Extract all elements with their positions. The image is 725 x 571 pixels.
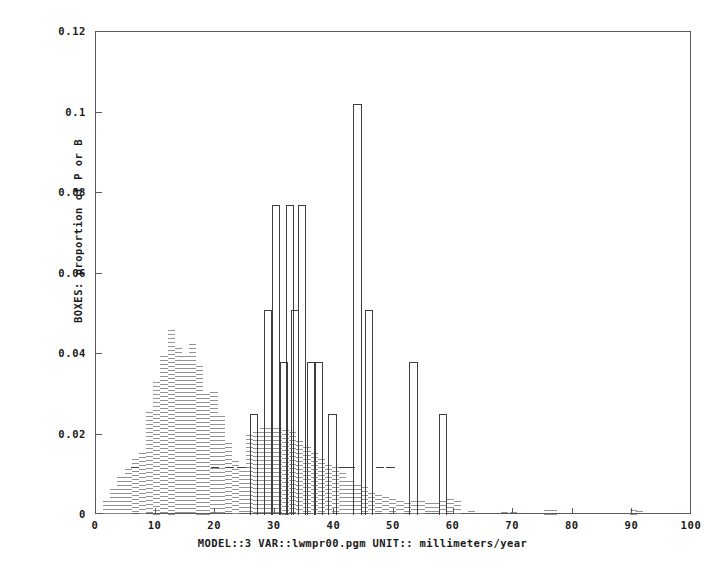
boxes-outline-series	[96, 32, 692, 515]
y-axis-title: BOXES: proportion of P or B	[72, 91, 84, 371]
points-dot-column	[139, 453, 146, 515]
points-dot-column	[275, 428, 282, 515]
histogram-figure: 00.020.040.060.080.10.12 010203040506070…	[0, 0, 725, 571]
histogram-box	[286, 205, 294, 515]
histogram-box	[250, 414, 258, 515]
points-dot-column	[361, 487, 368, 515]
points-dot-column	[182, 356, 189, 515]
x-tick-label: 0	[70, 519, 120, 531]
x-tick-label: 40	[308, 519, 358, 531]
points-dot-column	[246, 435, 253, 516]
histogram-box	[328, 414, 336, 515]
points-dot-column	[168, 330, 175, 515]
points-dot-column	[117, 477, 124, 515]
points-dot-column	[232, 461, 239, 515]
points-dot-column	[501, 512, 508, 515]
histogram-box	[211, 467, 219, 515]
x-tick-label: 50	[368, 519, 418, 531]
points-dot-column	[439, 501, 446, 515]
points-dot-column	[636, 511, 643, 515]
points-dot-column	[103, 501, 110, 515]
points-dot-column	[146, 412, 153, 515]
y-tick-mark	[95, 192, 102, 193]
histogram-box	[280, 362, 288, 515]
x-tick-mark	[453, 508, 454, 514]
y-tick-mark	[95, 353, 102, 354]
points-dot-column	[153, 382, 160, 515]
x-tick-mark	[333, 508, 334, 514]
x-tick-label: 60	[428, 519, 478, 531]
points-dot-column	[311, 453, 318, 515]
y-tick-mark	[95, 273, 102, 274]
points-dot-column	[353, 485, 360, 515]
points-dot-column	[382, 497, 389, 515]
x-tick-mark	[214, 508, 215, 514]
points-dot-column	[282, 430, 289, 515]
y-tick-mark	[95, 112, 102, 113]
points-dot-column	[218, 416, 225, 515]
x-tick-mark	[274, 508, 275, 514]
histogram-box	[298, 205, 306, 515]
points-dot-column	[411, 501, 418, 515]
points-dot-column	[296, 441, 303, 515]
points-dot-column	[110, 489, 117, 515]
points-dot-column	[544, 510, 551, 515]
points-dot-column	[346, 481, 353, 515]
histogram-box	[409, 362, 417, 515]
x-tick-mark	[512, 508, 513, 514]
x-tick-label: 10	[130, 519, 180, 531]
histogram-box	[291, 310, 299, 515]
points-dot-column	[189, 344, 196, 515]
points-dot-column	[203, 394, 210, 515]
points-dot-column	[396, 501, 403, 515]
points-dot-column	[175, 348, 182, 515]
x-tick-mark	[393, 508, 394, 514]
points-dot-column	[253, 432, 260, 515]
points-dot-column	[375, 495, 382, 515]
x-tick-mark	[631, 508, 632, 514]
points-dot-column	[550, 510, 557, 515]
points-dotted-series	[96, 32, 692, 515]
histogram-box	[439, 414, 447, 515]
points-dot-column	[432, 503, 439, 515]
histogram-box	[353, 104, 361, 515]
histogram-box	[272, 205, 280, 515]
y-tick-mark	[95, 434, 102, 435]
histogram-box	[264, 310, 272, 515]
x-tick-label: 30	[249, 519, 299, 531]
points-dot-column	[210, 392, 217, 515]
x-tick-label: 70	[487, 519, 537, 531]
points-dot-column	[289, 432, 296, 515]
x-tick-label: 90	[606, 519, 656, 531]
histogram-box	[307, 362, 315, 515]
points-dot-column	[225, 443, 232, 515]
points-dot-column	[339, 473, 346, 515]
points-dot-column	[404, 503, 411, 515]
points-dot-column	[160, 356, 167, 515]
histogram-box	[237, 467, 245, 515]
x-tick-label: 20	[189, 519, 239, 531]
points-dot-column	[268, 428, 275, 515]
histogram-box	[225, 467, 233, 515]
x-tick-mark	[572, 508, 573, 514]
histogram-box	[339, 467, 347, 515]
histogram-box	[347, 467, 355, 515]
points-dot-column	[468, 511, 475, 515]
points-dot-column	[425, 503, 432, 515]
points-dot-column	[303, 447, 310, 515]
points-dot-column	[318, 459, 325, 515]
points-dot-column	[418, 501, 425, 515]
x-tick-mark	[155, 508, 156, 514]
histogram-box	[376, 467, 384, 515]
histogram-box	[131, 467, 139, 515]
y-tick-label: 0.12	[8, 25, 86, 37]
points-dot-column	[125, 469, 132, 515]
x-tick-label: 100	[666, 519, 716, 531]
points-dot-column	[196, 366, 203, 515]
plot-area	[95, 31, 691, 514]
points-dot-column	[368, 493, 375, 515]
points-dot-column	[239, 467, 246, 515]
points-dot-column	[260, 428, 267, 515]
y-tick-label: 0.02	[8, 428, 86, 440]
points-dot-column	[132, 459, 139, 515]
